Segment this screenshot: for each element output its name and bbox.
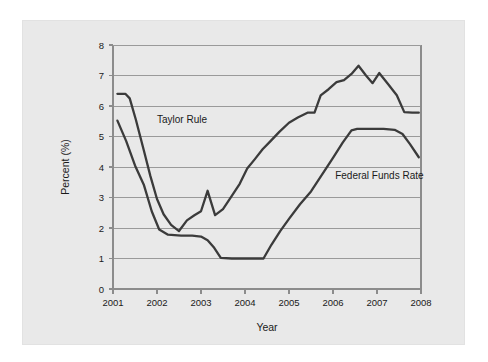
x-tick-label: 2004 <box>234 297 255 308</box>
y-tick-label: 1 <box>99 253 104 264</box>
x-tick-label: 2001 <box>102 297 123 308</box>
series-line-federal-funds-rate <box>117 121 418 259</box>
y-tick-label: 4 <box>99 162 104 173</box>
x-tick-label: 2007 <box>366 297 387 308</box>
y-axis-title: Percent (%) <box>59 139 71 194</box>
y-tick-label: 7 <box>99 70 104 81</box>
x-tick-label: 2006 <box>322 297 343 308</box>
figure-container: 0123456782001200220032004200520062007200… <box>0 0 488 362</box>
x-axis-title: Year <box>256 321 278 333</box>
chart-panel: 0123456782001200220032004200520062007200… <box>22 20 465 345</box>
y-tick-label: 3 <box>99 192 104 203</box>
x-tick-label: 2003 <box>190 297 211 308</box>
x-tick-label: 2005 <box>278 297 299 308</box>
x-tick-label: 2002 <box>146 297 167 308</box>
y-tick-label: 8 <box>99 40 104 51</box>
y-tick-label: 2 <box>99 223 104 234</box>
y-tick-label: 5 <box>99 131 104 142</box>
y-tick-label: 6 <box>99 101 104 112</box>
x-tick-label: 2008 <box>410 297 431 308</box>
y-tick-label: 0 <box>99 284 104 295</box>
series-line-taylor-rule <box>117 66 418 231</box>
series-label-taylor-rule: Taylor Rule <box>157 114 207 125</box>
series-label-federal-funds-rate: Federal Funds Rate <box>335 170 424 181</box>
line-chart: 0123456782001200220032004200520062007200… <box>23 21 466 346</box>
